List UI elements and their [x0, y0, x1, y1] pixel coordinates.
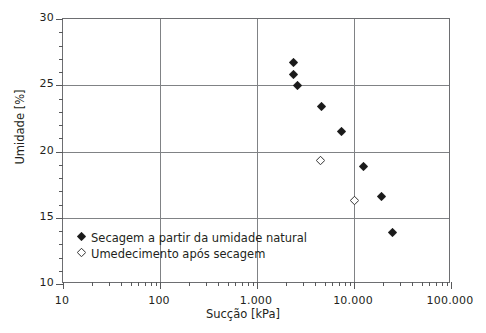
y-axis-minor-tick [59, 112, 63, 113]
legend-label: Secagem a partir da umidade natural [91, 230, 307, 246]
y-axis-minor-tick [59, 231, 63, 232]
open-diamond-icon [77, 248, 91, 260]
x-axis-minor-tick [138, 282, 139, 286]
data-point [350, 196, 359, 205]
x-axis-minor-tick [189, 282, 190, 286]
x-axis-tick [257, 282, 258, 289]
filled-diamond-icon [77, 232, 91, 244]
x-axis-minor-tick [332, 282, 333, 286]
y-axis-minor-tick [59, 271, 63, 272]
gridline-horizontal [63, 218, 449, 219]
data-point [317, 102, 326, 111]
x-axis-minor-tick [253, 282, 254, 286]
x-axis-tick [451, 282, 452, 289]
x-axis-minor-tick [447, 282, 448, 286]
x-axis-minor-tick [218, 282, 219, 286]
y-axis-minor-tick [59, 72, 63, 73]
y-axis-minor-tick [59, 138, 63, 139]
y-axis-tick-label: 30 [24, 11, 54, 24]
y-axis-tick [56, 19, 63, 20]
y-axis-tick [56, 218, 63, 219]
y-axis-minor-tick [59, 244, 63, 245]
x-axis-minor-tick [412, 282, 413, 286]
x-axis-tick [354, 282, 355, 289]
y-axis-minor-tick [59, 205, 63, 206]
x-axis-minor-tick [235, 282, 236, 286]
x-axis-minor-tick [248, 282, 249, 286]
x-axis-minor-tick [286, 282, 287, 286]
data-point [359, 162, 368, 171]
x-axis-minor-tick [242, 282, 243, 286]
x-axis-minor-tick [121, 282, 122, 286]
x-axis-tick [63, 282, 64, 289]
x-axis-tick-label: 10 [22, 294, 102, 307]
legend-label: Umedecimento após secagem [91, 246, 265, 262]
x-axis-minor-tick [422, 282, 423, 286]
gridline-horizontal [63, 152, 449, 153]
y-axis-tick-label: 25 [24, 77, 54, 90]
gridline-vertical [354, 19, 355, 282]
y-axis-minor-tick [59, 258, 63, 259]
y-axis-minor-tick [59, 32, 63, 33]
data-point [316, 156, 325, 165]
y-axis-minor-tick [59, 178, 63, 179]
y-axis-minor-tick [59, 191, 63, 192]
x-axis-minor-tick [156, 282, 157, 286]
legend-item: Secagem a partir da umidade natural [77, 230, 307, 246]
data-point [289, 58, 298, 67]
scatter-chart: Umidade [%] Sucção [kPa] 1015202530 1010… [0, 0, 486, 333]
x-axis-minor-tick [345, 282, 346, 286]
x-axis-minor-tick [131, 282, 132, 286]
x-axis-minor-tick [109, 282, 110, 286]
x-axis-tick-label: 100.000 [410, 294, 486, 307]
x-axis-minor-tick [400, 282, 401, 286]
x-axis-minor-tick [339, 282, 340, 286]
x-axis-minor-tick [206, 282, 207, 286]
x-axis-minor-tick [350, 282, 351, 286]
chart-legend: Secagem a partir da umidade naturalUmede… [77, 230, 307, 262]
y-axis-minor-tick [59, 125, 63, 126]
x-axis-minor-tick [92, 282, 93, 286]
x-axis-minor-tick [145, 282, 146, 286]
data-point [388, 228, 397, 237]
x-axis-tick-label: 10.000 [313, 294, 393, 307]
plot-area: Secagem a partir da umidade naturalUmede… [62, 18, 450, 283]
x-axis-minor-tick [151, 282, 152, 286]
data-point [293, 81, 302, 90]
y-axis-tick-label: 15 [24, 210, 54, 223]
x-axis-title: Sucção [kPa] [0, 307, 486, 321]
y-axis-minor-tick [59, 99, 63, 100]
x-axis-tick [160, 282, 161, 289]
data-point [289, 70, 298, 79]
y-axis-minor-tick [59, 59, 63, 60]
x-axis-minor-tick [442, 282, 443, 286]
y-axis-tick [56, 284, 63, 285]
y-axis-tick-label: 10 [24, 276, 54, 289]
y-axis-tick-label: 20 [24, 144, 54, 157]
x-axis-minor-tick [228, 282, 229, 286]
y-axis-minor-tick [59, 165, 63, 166]
x-axis-tick-label: 1.000 [216, 294, 296, 307]
x-axis-minor-tick [315, 282, 316, 286]
x-axis-minor-tick [383, 282, 384, 286]
data-point [377, 192, 386, 201]
data-point [337, 127, 346, 136]
y-axis-minor-tick [59, 46, 63, 47]
x-axis-minor-tick [303, 282, 304, 286]
x-axis-minor-tick [429, 282, 430, 286]
y-axis-tick [56, 85, 63, 86]
legend-item: Umedecimento após secagem [77, 246, 307, 262]
gridline-horizontal [63, 85, 449, 86]
x-axis-minor-tick [436, 282, 437, 286]
x-axis-tick-label: 100 [119, 294, 199, 307]
x-axis-minor-tick [325, 282, 326, 286]
y-axis-tick [56, 152, 63, 153]
